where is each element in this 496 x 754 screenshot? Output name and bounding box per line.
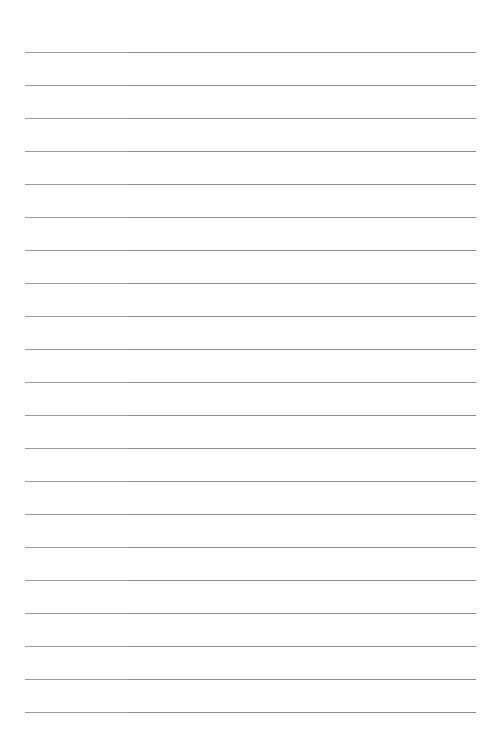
ruled-line-left-segment bbox=[25, 283, 128, 284]
ruled-line bbox=[25, 52, 476, 53]
ruled-line bbox=[25, 184, 476, 185]
ruled-line-right-segment bbox=[128, 184, 476, 185]
ruled-line-left-segment bbox=[25, 151, 128, 152]
ruled-line bbox=[25, 646, 476, 647]
ruled-line-right-segment bbox=[128, 250, 476, 251]
ruled-line-left-segment bbox=[25, 85, 128, 86]
ruled-line-right-segment bbox=[128, 679, 476, 680]
ruled-line-right-segment bbox=[128, 580, 476, 581]
ruled-line-right-segment bbox=[128, 85, 476, 86]
ruled-line-left-segment bbox=[25, 184, 128, 185]
ruled-line bbox=[25, 85, 476, 86]
ruled-line-left-segment bbox=[25, 415, 128, 416]
ruled-line bbox=[25, 514, 476, 515]
ruled-line-right-segment bbox=[128, 481, 476, 482]
ruled-line bbox=[25, 349, 476, 350]
ruled-line-right-segment bbox=[128, 151, 476, 152]
ruled-line bbox=[25, 316, 476, 317]
ruled-line-right-segment bbox=[128, 646, 476, 647]
ruled-line-right-segment bbox=[128, 514, 476, 515]
ruled-line-left-segment bbox=[25, 52, 128, 53]
ruled-line bbox=[25, 250, 476, 251]
ruled-line-right-segment bbox=[128, 283, 476, 284]
ruled-line bbox=[25, 382, 476, 383]
ruled-line-left-segment bbox=[25, 382, 128, 383]
ruled-line-right-segment bbox=[128, 415, 476, 416]
ruled-line bbox=[25, 712, 476, 713]
ruled-line bbox=[25, 547, 476, 548]
lined-paper-page bbox=[0, 0, 496, 754]
ruled-line-left-segment bbox=[25, 217, 128, 218]
ruled-line-right-segment bbox=[128, 52, 476, 53]
ruled-line bbox=[25, 580, 476, 581]
ruled-line-right-segment bbox=[128, 712, 476, 713]
ruled-line-left-segment bbox=[25, 481, 128, 482]
ruled-line-right-segment bbox=[128, 316, 476, 317]
ruled-line-left-segment bbox=[25, 514, 128, 515]
ruled-line-left-segment bbox=[25, 646, 128, 647]
ruled-line bbox=[25, 448, 476, 449]
ruled-line-left-segment bbox=[25, 118, 128, 119]
ruled-line-right-segment bbox=[128, 349, 476, 350]
ruled-line bbox=[25, 217, 476, 218]
ruled-line-right-segment bbox=[128, 217, 476, 218]
ruled-line bbox=[25, 613, 476, 614]
ruled-line-right-segment bbox=[128, 382, 476, 383]
ruled-line-right-segment bbox=[128, 448, 476, 449]
ruled-line bbox=[25, 151, 476, 152]
ruled-line-left-segment bbox=[25, 316, 128, 317]
ruled-line-left-segment bbox=[25, 448, 128, 449]
ruled-line bbox=[25, 679, 476, 680]
ruled-line bbox=[25, 283, 476, 284]
ruled-line bbox=[25, 481, 476, 482]
ruled-line-right-segment bbox=[128, 118, 476, 119]
ruled-line-left-segment bbox=[25, 580, 128, 581]
ruled-line-left-segment bbox=[25, 547, 128, 548]
ruled-line-left-segment bbox=[25, 712, 128, 713]
ruled-line bbox=[25, 415, 476, 416]
ruled-line-left-segment bbox=[25, 349, 128, 350]
ruled-line-right-segment bbox=[128, 613, 476, 614]
ruled-line-right-segment bbox=[128, 547, 476, 548]
ruled-line bbox=[25, 118, 476, 119]
ruled-line-left-segment bbox=[25, 613, 128, 614]
ruled-line-left-segment bbox=[25, 250, 128, 251]
ruled-line-left-segment bbox=[25, 679, 128, 680]
